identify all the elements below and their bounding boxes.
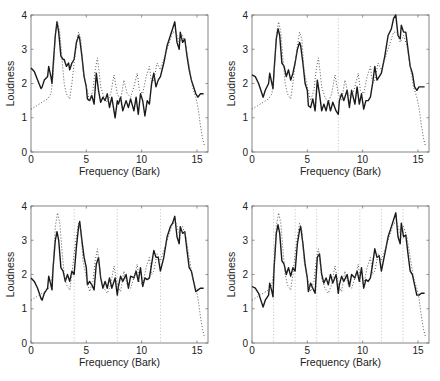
solid-loudness-curve: [31, 22, 204, 118]
y-tick-label: 3: [242, 44, 248, 55]
x-tick-label: 5: [305, 154, 311, 165]
dotted-loudness-curve: [252, 22, 426, 147]
y-tick-label: 1: [242, 303, 248, 314]
solid-loudness-curve: [252, 15, 425, 114]
y-axis-label: Loudness: [225, 61, 237, 107]
y-tick-label: 3: [21, 44, 27, 55]
x-tick-label: 15: [191, 345, 203, 356]
x-tick-label: 0: [28, 345, 34, 356]
axes-frame: [252, 15, 429, 152]
x-tick-label: 10: [357, 154, 369, 165]
x-tick-label: 5: [84, 154, 90, 165]
x-axis-label: Frequency (Bark): [79, 165, 160, 177]
y-tick-label: 4: [21, 10, 27, 21]
panel-top-left: 05101501234Frequency (Bark)Loudness: [4, 10, 208, 178]
axes-frame: [31, 206, 208, 343]
chart-canvas: 05101501234Frequency (Bark)Loudness05101…: [0, 0, 440, 381]
dotted-loudness-curve: [31, 22, 205, 147]
panel-top-right: 05101501234Frequency (Bark)Loudness: [225, 10, 429, 178]
solid-loudness-curve: [252, 213, 425, 307]
y-axis-label: Loudness: [4, 61, 16, 107]
loudness-figure: 05101501234Frequency (Bark)Loudness05101…: [0, 0, 440, 381]
x-tick-label: 15: [412, 154, 424, 165]
x-tick-label: 5: [84, 345, 90, 356]
y-tick-label: 0: [242, 338, 248, 349]
y-tick-label: 1: [21, 112, 27, 123]
x-tick-label: 10: [136, 345, 148, 356]
x-tick-label: 10: [357, 345, 369, 356]
x-tick-label: 10: [136, 154, 148, 165]
x-tick-label: 0: [249, 154, 255, 165]
y-tick-label: 4: [242, 201, 248, 212]
x-tick-label: 5: [305, 345, 311, 356]
y-tick-label: 0: [242, 147, 248, 158]
y-tick-label: 4: [21, 201, 27, 212]
y-tick-label: 2: [21, 78, 27, 89]
x-tick-label: 0: [28, 154, 34, 165]
x-axis-label: Frequency (Bark): [300, 165, 381, 177]
y-tick-label: 2: [242, 78, 248, 89]
y-tick-label: 0: [21, 338, 27, 349]
y-tick-label: 2: [242, 269, 248, 280]
x-tick-label: 15: [191, 154, 203, 165]
y-tick-label: 1: [21, 303, 27, 314]
x-axis-label: Frequency (Bark): [79, 356, 160, 368]
panel-bottom-right: 05101501234Frequency (Bark)Loudness: [225, 201, 429, 369]
y-tick-label: 3: [21, 235, 27, 246]
y-axis-label: Loudness: [225, 252, 237, 298]
x-tick-label: 15: [412, 345, 424, 356]
y-tick-label: 4: [242, 10, 248, 21]
dotted-loudness-curve: [252, 213, 426, 338]
y-axis-label: Loudness: [4, 252, 16, 298]
panel-bottom-left: 05101501234Frequency (Bark)Loudness: [4, 201, 208, 369]
y-tick-label: 2: [21, 269, 27, 280]
y-tick-label: 1: [242, 112, 248, 123]
y-tick-label: 0: [21, 147, 27, 158]
y-tick-label: 3: [242, 235, 248, 246]
x-tick-label: 0: [249, 345, 255, 356]
x-axis-label: Frequency (Bark): [300, 356, 381, 368]
